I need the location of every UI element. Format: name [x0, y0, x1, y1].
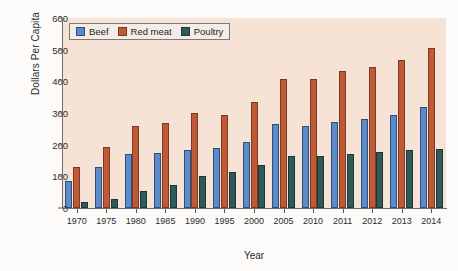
- x-tick-label: 1980: [126, 216, 146, 226]
- x-tick-label: 1975: [96, 216, 116, 226]
- chart-legend: Beef Red meat Poultry: [69, 23, 230, 40]
- x-tick-mark: [313, 209, 314, 213]
- bar-poultry-1995: [229, 172, 236, 208]
- y-tick-mark: [58, 176, 62, 177]
- x-tick-mark: [224, 209, 225, 213]
- x-tick-mark: [77, 209, 78, 213]
- x-axis-title: Year: [56, 250, 452, 261]
- bar-poultry-2005: [288, 156, 295, 208]
- legend-label-poultry: Poultry: [194, 26, 224, 37]
- bar-beef-2014: [420, 107, 427, 208]
- y-tick-label: 100: [28, 171, 68, 182]
- bars-layer: [63, 18, 446, 208]
- bar-chart-figure: 0100200300400500600197019751980198519901…: [0, 0, 458, 271]
- legend-label-red-meat: Red meat: [131, 26, 172, 37]
- y-tick-mark: [58, 208, 62, 209]
- bar-poultry-2000: [258, 165, 265, 208]
- x-tick-mark: [343, 209, 344, 213]
- bar-beef-1975: [95, 167, 102, 208]
- x-tick-mark: [106, 209, 107, 213]
- y-tick-mark: [58, 113, 62, 114]
- x-tick-label: 2010: [303, 216, 323, 226]
- bar-red-meat-2014: [428, 48, 435, 208]
- bar-red-meat-1995: [221, 115, 228, 208]
- x-tick-label: 2014: [421, 216, 441, 226]
- bar-beef-2010: [302, 126, 309, 208]
- y-axis-title: Dollars Per Capita: [30, 0, 41, 149]
- x-tick-label: 2012: [362, 216, 382, 226]
- bar-poultry-1980: [140, 191, 147, 208]
- y-tick-mark: [58, 144, 62, 145]
- x-tick-mark: [195, 209, 196, 213]
- bar-red-meat-1975: [103, 147, 110, 208]
- x-tick-label: 2013: [392, 216, 412, 226]
- y-tick-mark: [58, 49, 62, 50]
- x-tick-label: 1970: [67, 216, 87, 226]
- x-tick-mark: [165, 209, 166, 213]
- x-tick-label: 2011: [333, 216, 352, 226]
- bar-poultry-2010: [317, 156, 324, 208]
- bar-poultry-1990: [199, 176, 206, 208]
- x-tick-mark: [431, 209, 432, 213]
- bar-red-meat-1990: [191, 113, 198, 208]
- bar-red-meat-2010: [310, 79, 317, 208]
- x-tick-mark: [136, 209, 137, 213]
- bar-red-meat-1985: [162, 123, 169, 208]
- bar-red-meat-2011: [339, 71, 346, 208]
- y-tick-label: 0: [28, 203, 68, 214]
- bar-beef-1995: [213, 148, 220, 208]
- x-tick-label: 2005: [274, 216, 294, 226]
- bar-beef-2013: [390, 115, 397, 208]
- bar-poultry-2014: [436, 149, 443, 208]
- bar-red-meat-2000: [251, 102, 258, 208]
- bar-red-meat-1970: [73, 167, 80, 208]
- legend-item-beef[interactable]: Beef: [76, 26, 109, 37]
- bar-beef-2012: [361, 119, 368, 208]
- x-tick-label: 1985: [155, 216, 175, 226]
- legend-item-red-meat[interactable]: Red meat: [118, 26, 172, 37]
- x-tick-mark: [402, 209, 403, 213]
- bar-beef-2011: [331, 122, 338, 208]
- legend-swatch-red-meat-icon: [118, 27, 127, 36]
- x-tick-label: 2000: [244, 216, 264, 226]
- x-tick-mark: [284, 209, 285, 213]
- bar-red-meat-2013: [398, 60, 405, 208]
- x-tick-label: 1995: [214, 216, 234, 226]
- y-tick-mark: [58, 81, 62, 82]
- bar-red-meat-2005: [280, 79, 287, 208]
- x-tick-label: 1990: [185, 216, 205, 226]
- bar-beef-1985: [154, 153, 161, 208]
- bar-beef-2000: [243, 142, 250, 208]
- legend-swatch-poultry-icon: [181, 27, 190, 36]
- x-tick-mark: [254, 209, 255, 213]
- bar-poultry-1985: [170, 185, 177, 208]
- legend-swatch-beef-icon: [76, 27, 85, 36]
- legend-label-beef: Beef: [89, 26, 109, 37]
- bar-poultry-1975: [111, 199, 118, 209]
- bar-red-meat-1980: [132, 126, 139, 208]
- bar-beef-2005: [272, 124, 279, 208]
- bar-red-meat-2012: [369, 67, 376, 208]
- y-tick-mark: [58, 18, 62, 19]
- bar-poultry-2013: [406, 150, 413, 208]
- bar-poultry-1970: [81, 202, 88, 208]
- bar-poultry-2011: [347, 154, 354, 208]
- bar-beef-1990: [184, 150, 191, 208]
- x-tick-mark: [372, 209, 373, 213]
- bar-beef-1980: [125, 154, 132, 208]
- legend-item-poultry[interactable]: Poultry: [181, 26, 224, 37]
- bar-poultry-2012: [376, 152, 383, 208]
